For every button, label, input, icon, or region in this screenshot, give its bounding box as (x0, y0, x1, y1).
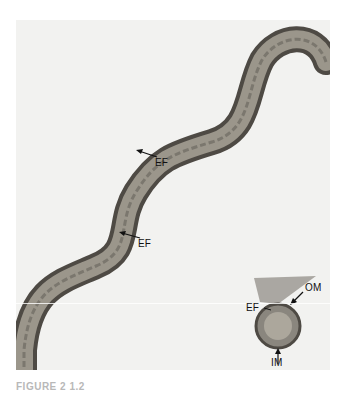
inset-ef-label: EF (246, 302, 259, 313)
image-seam (16, 303, 330, 304)
inset-im-label: IM (271, 357, 283, 368)
ef-label-upper: EF (155, 157, 168, 168)
micrograph-image: EF EF EF OM IM (16, 20, 330, 370)
figure-caption: FIGURE 2 1.2 (16, 381, 85, 392)
ef-label-lower: EF (138, 238, 151, 249)
spirochete-drawing (16, 20, 330, 370)
inset-om-label: OM (305, 282, 322, 293)
